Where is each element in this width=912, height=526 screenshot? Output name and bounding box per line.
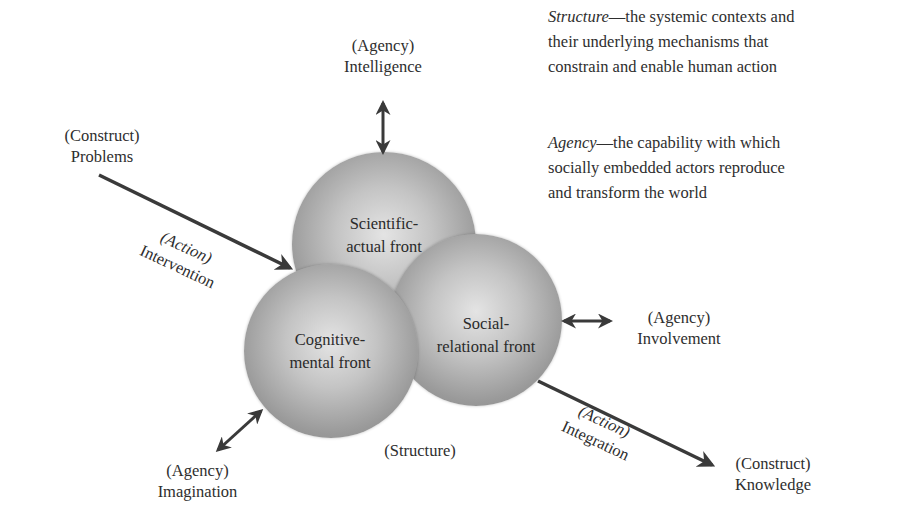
problems-label: (Construct) Problems [42,125,162,167]
structure-label: (Structure) [360,440,480,461]
imagination-tag: (Agency) [140,460,255,481]
imagination-double-arrow-icon [218,411,261,450]
involvement-name: Involvement [614,328,744,349]
intelligence-label: (Agency) Intelligence [323,35,443,77]
involvement-tag: (Agency) [614,307,744,328]
problems-tag: (Construct) [42,125,162,146]
imagination-name: Imagination [140,481,255,502]
knowledge-tag: (Construct) [713,453,833,474]
intelligence-tag: (Agency) [323,35,443,56]
imagination-label: (Agency) Imagination [140,460,255,502]
involvement-label: (Agency) Involvement [614,307,744,349]
problems-name: Problems [42,146,162,167]
intelligence-name: Intelligence [323,56,443,77]
knowledge-label: (Construct) Knowledge [713,453,833,495]
knowledge-name: Knowledge [713,474,833,495]
